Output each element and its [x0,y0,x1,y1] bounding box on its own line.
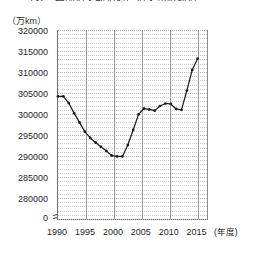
x-tick-label: 1995 [75,228,95,237]
y-tick-label-zero: 0 [0,214,48,223]
y-tick-label: 315000 [0,48,48,57]
y-tick-label: 290000 [0,153,48,162]
y-tick-label: 295000 [0,132,48,141]
y-tick-label: 320000 [0,27,48,36]
x-axis-unit-label: (年度) [214,228,238,237]
y-tick-label: 305000 [0,90,48,99]
chart-title: うち一般国道・都道府県道・市町村道 [24,0,234,1]
y-tick-label: 300000 [0,111,48,120]
x-tick-label: 2010 [159,228,179,237]
x-tick-label: 2015 [187,228,207,237]
chart-container: うち一般国道・都道府県道・市町村道 （万km） 320000 315000 31… [0,0,254,256]
y-tick-label: 285000 [0,174,48,183]
y-tick-label: 310000 [0,69,48,78]
plot-area [57,30,208,220]
y-tick-label: 280000 [0,195,48,204]
x-tick-label: 1990 [47,228,67,237]
data-series-line [58,30,209,220]
x-tick-label: 2000 [103,228,123,237]
x-tick-label: 2005 [131,228,151,237]
